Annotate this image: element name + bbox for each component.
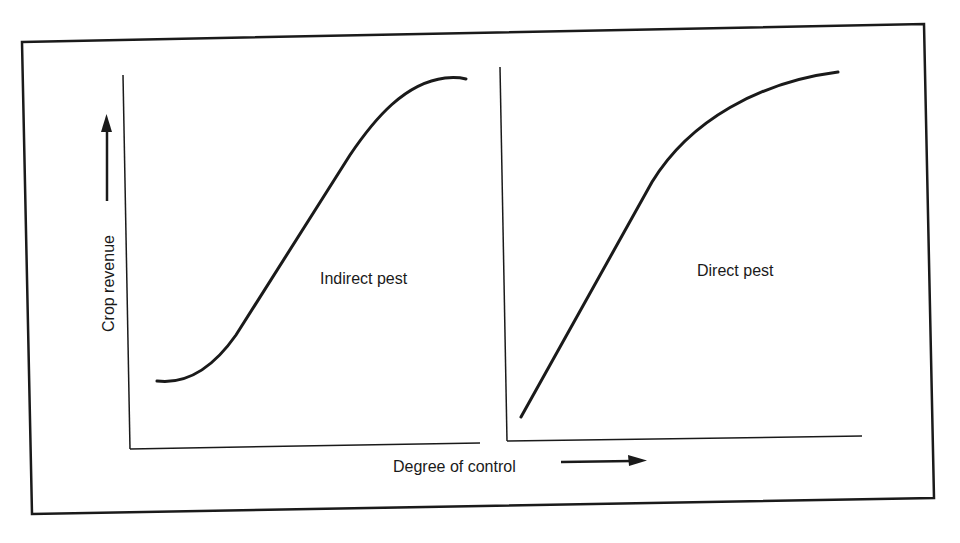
x-axis-label: Degree of control [393,458,516,475]
panel-label-indirect-pest: Indirect pest [320,270,408,287]
panel-direct-pest: Direct pest [500,67,862,441]
right-arrow-head [628,455,647,466]
y-axis-label: Crop revenue [100,235,117,332]
right-arrow-icon [561,461,632,462]
x-axis-left [130,443,480,449]
up-arrow-head [101,114,112,132]
panel-label-direct-pest: Direct pest [697,262,774,279]
y-axis-left [123,75,130,449]
direct-pest-curve [521,72,838,417]
x-axis-title: Degree of control [393,455,647,475]
indirect-pest-curve [157,78,466,382]
y-axis-right [500,67,507,441]
figure-frame [22,24,934,514]
figure: Indirect pest Direct pest Crop revenue D… [0,0,960,543]
y-axis-title: Crop revenue [100,114,117,332]
panel-indirect-pest: Indirect pest [123,75,480,449]
x-axis-right [507,436,862,441]
